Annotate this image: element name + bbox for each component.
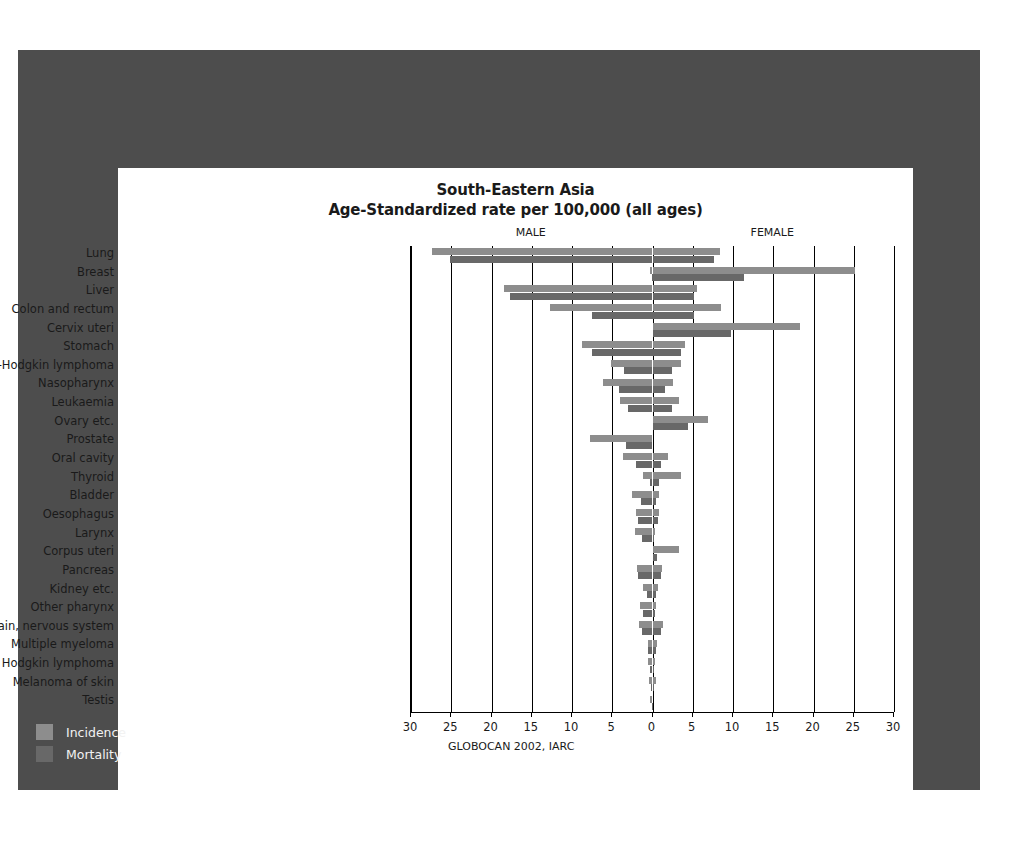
bar-left-incidence [636, 509, 653, 516]
legend-swatch-incidence [36, 724, 53, 740]
bar-right-incidence [653, 323, 800, 330]
category-label: Liver [86, 285, 114, 297]
bar-right-mortality [653, 256, 714, 263]
bar-left-mortality [638, 572, 652, 579]
bar-right-incidence [653, 677, 656, 684]
bar-left-incidence [639, 621, 653, 628]
x-axis-tick [893, 712, 894, 717]
bar-right-incidence [653, 621, 663, 628]
bar-right-incidence [653, 285, 697, 292]
bar-left-incidence [640, 602, 653, 609]
bar-right-incidence [653, 397, 680, 404]
bar-right-incidence [653, 602, 656, 609]
category-label: Non-Hodgkin lymphoma [0, 360, 114, 372]
bar-right-mortality [653, 405, 672, 412]
bar-right-incidence [653, 267, 855, 274]
bar-right-mortality [653, 517, 659, 524]
bar-left-mortality [642, 535, 652, 542]
bar-left-incidence [504, 285, 652, 292]
bar-right-incidence [653, 304, 721, 311]
category-label: Colon and rectum [12, 304, 114, 316]
bar-right-incidence [653, 509, 659, 516]
gridline [411, 246, 412, 712]
chart-panel: South-Eastern Asia Age-Standardized rate… [118, 168, 913, 792]
bar-left-mortality [619, 386, 653, 393]
legend-item-mortality: Mortality [36, 745, 256, 767]
bar-left-incidence [432, 248, 653, 255]
slide-background: South-Eastern Asia Age-Standardized rate… [18, 50, 980, 790]
bar-right-mortality [653, 610, 655, 617]
legend-label-incidence: Incidence [66, 725, 126, 740]
category-label: Other pharynx [30, 602, 114, 614]
x-axis-tick [571, 712, 572, 717]
bar-right-incidence [653, 565, 663, 572]
x-axis-tick [450, 712, 451, 717]
x-axis-tick-label: 20 [483, 720, 498, 734]
x-axis-tick [410, 712, 411, 717]
bar-right-mortality [653, 386, 666, 393]
x-axis-tick [531, 712, 532, 717]
bar-left-mortality [592, 312, 652, 319]
x-axis-tick-label: 5 [688, 720, 695, 734]
x-axis-tick-label: 25 [443, 720, 458, 734]
bar-left-incidence [623, 453, 653, 460]
bar-left-mortality [510, 293, 652, 300]
chart-source: GLOBOCAN 2002, IARC [448, 740, 574, 753]
x-axis-tick [853, 712, 854, 717]
bar-right-incidence [653, 546, 680, 553]
bar-right-mortality [653, 647, 656, 654]
gridline [733, 246, 734, 712]
bar-right-incidence [653, 341, 685, 348]
x-axis-tick-label: 10 [725, 720, 740, 734]
bar-right-mortality [653, 274, 745, 281]
bar-right-mortality [653, 666, 655, 673]
gridline [814, 246, 815, 712]
bar-right-mortality [653, 330, 732, 337]
bar-right-mortality [653, 535, 655, 542]
bar-right-incidence [653, 416, 709, 423]
category-label: Larynx [75, 528, 114, 540]
bar-right-incidence [653, 584, 659, 591]
x-axis-tick-label: 30 [403, 720, 418, 734]
bar-left-mortality [636, 461, 653, 468]
bar-left-mortality [450, 256, 652, 263]
x-axis-tick-label: 10 [564, 720, 579, 734]
bar-left-mortality [642, 628, 652, 635]
category-label: Hodgkin lymphoma [2, 658, 114, 670]
bar-right-mortality [653, 684, 655, 691]
bar-right-incidence [653, 658, 655, 665]
gridline [572, 246, 573, 712]
x-axis-tick-label: 5 [608, 720, 615, 734]
x-axis-tick-label: 15 [523, 720, 538, 734]
bar-right-mortality [653, 628, 661, 635]
x-axis-tick-label: 25 [845, 720, 860, 734]
category-label: Oral cavity [52, 453, 114, 465]
bar-right-incidence [653, 453, 668, 460]
x-axis-tick [813, 712, 814, 717]
x-axis-tick [732, 712, 733, 717]
gridline [854, 246, 855, 712]
category-label: Multiple myeloma [11, 639, 114, 651]
gridline [532, 246, 533, 712]
x-axis-tick [491, 712, 492, 717]
category-label: Cervix uteri [47, 323, 114, 335]
bar-right-incidence [653, 360, 682, 367]
category-label: Ovary etc. [54, 416, 114, 428]
bar-left-mortality [624, 367, 652, 374]
bar-left-incidence [635, 528, 653, 535]
bar-right-mortality [653, 591, 656, 598]
bar-right-mortality [653, 498, 656, 505]
bar-left-incidence [582, 341, 652, 348]
bar-right-mortality [653, 312, 694, 319]
bar-right-incidence [653, 379, 673, 386]
legend-item-incidence: Incidence [36, 723, 256, 745]
category-label: Leukaemia [51, 397, 114, 409]
bar-left-incidence [632, 491, 653, 498]
bar-left-mortality [652, 703, 654, 710]
gridline [451, 246, 452, 712]
category-label: Brain, nervous system [0, 621, 114, 633]
bar-left-mortality [592, 349, 652, 356]
bar-right-mortality [653, 349, 681, 356]
x-axis-tick-label: 15 [765, 720, 780, 734]
category-label: Testis [82, 695, 114, 707]
